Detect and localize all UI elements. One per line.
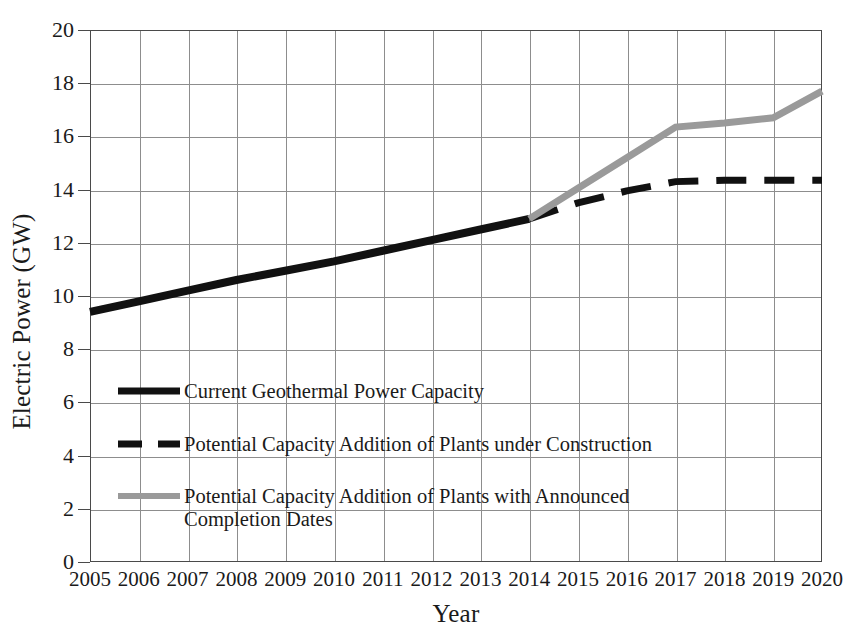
legend-label: Potential Capacity Addition of Plants wi…: [184, 485, 654, 531]
legend-label: Current Geothermal Power Capacity: [184, 380, 484, 403]
solid-gray-line-icon: [118, 485, 180, 507]
legend-entry-under-construction: Potential Capacity Addition of Plants un…: [118, 433, 652, 456]
solid-black-line-icon: [118, 380, 180, 402]
y-tick-mark: [78, 190, 90, 191]
y-tick-mark: [78, 296, 90, 297]
geothermal-capacity-chart: Electric Power (GW) Current Geothermal P…: [0, 0, 856, 643]
y-tick-mark: [78, 456, 90, 457]
y-tick-label: 16: [28, 125, 74, 147]
legend-entry-current-capacity: Current Geothermal Power Capacity: [118, 380, 484, 403]
gridline-vertical: [189, 31, 190, 561]
gridline-vertical: [433, 31, 434, 561]
gridline-vertical: [677, 31, 678, 561]
gridline-vertical: [725, 31, 726, 561]
y-tick-label: 8: [28, 338, 74, 360]
dashed-black-line-icon: [118, 433, 180, 455]
y-tick-mark: [78, 509, 90, 510]
gridline-vertical: [530, 31, 531, 561]
y-tick-mark: [78, 243, 90, 244]
y-tick-mark: [78, 83, 90, 84]
gridline-vertical: [774, 31, 775, 561]
gridline-vertical: [140, 31, 141, 561]
plot-area: [90, 30, 822, 562]
gridline-vertical: [237, 31, 238, 561]
x-axis-title: Year: [90, 600, 822, 628]
gridline-horizontal: [91, 84, 821, 85]
y-axis-title: Electric Power (GW): [0, 0, 44, 643]
y-tick-mark: [78, 136, 90, 137]
y-tick-label: 18: [28, 72, 74, 94]
gridline-vertical: [286, 31, 287, 561]
y-tick-label: 2: [28, 498, 74, 520]
y-tick-mark: [78, 562, 90, 563]
legend-entry-announced-dates: Potential Capacity Addition of Plants wi…: [118, 485, 654, 531]
y-tick-mark: [78, 349, 90, 350]
y-tick-label: 20: [28, 19, 74, 41]
gridline-vertical: [481, 31, 482, 561]
y-tick-label: 12: [28, 232, 74, 254]
gridline-horizontal: [91, 403, 821, 404]
gridline-vertical: [628, 31, 629, 561]
gridline-horizontal: [91, 350, 821, 351]
gridline-horizontal: [91, 297, 821, 298]
gridline-horizontal: [91, 244, 821, 245]
y-tick-mark: [78, 402, 90, 403]
gridline-vertical: [335, 31, 336, 561]
gridline-horizontal: [91, 191, 821, 192]
x-tick-label: 2020: [790, 568, 854, 590]
gridline-vertical: [384, 31, 385, 561]
y-tick-mark: [78, 30, 90, 31]
y-tick-label: 4: [28, 445, 74, 467]
gridline-horizontal: [91, 137, 821, 138]
y-tick-label: 14: [28, 179, 74, 201]
y-tick-label: 10: [28, 285, 74, 307]
gridline-vertical: [579, 31, 580, 561]
gridline-horizontal: [91, 457, 821, 458]
legend-label: Potential Capacity Addition of Plants un…: [184, 433, 652, 456]
y-tick-label: 6: [28, 391, 74, 413]
